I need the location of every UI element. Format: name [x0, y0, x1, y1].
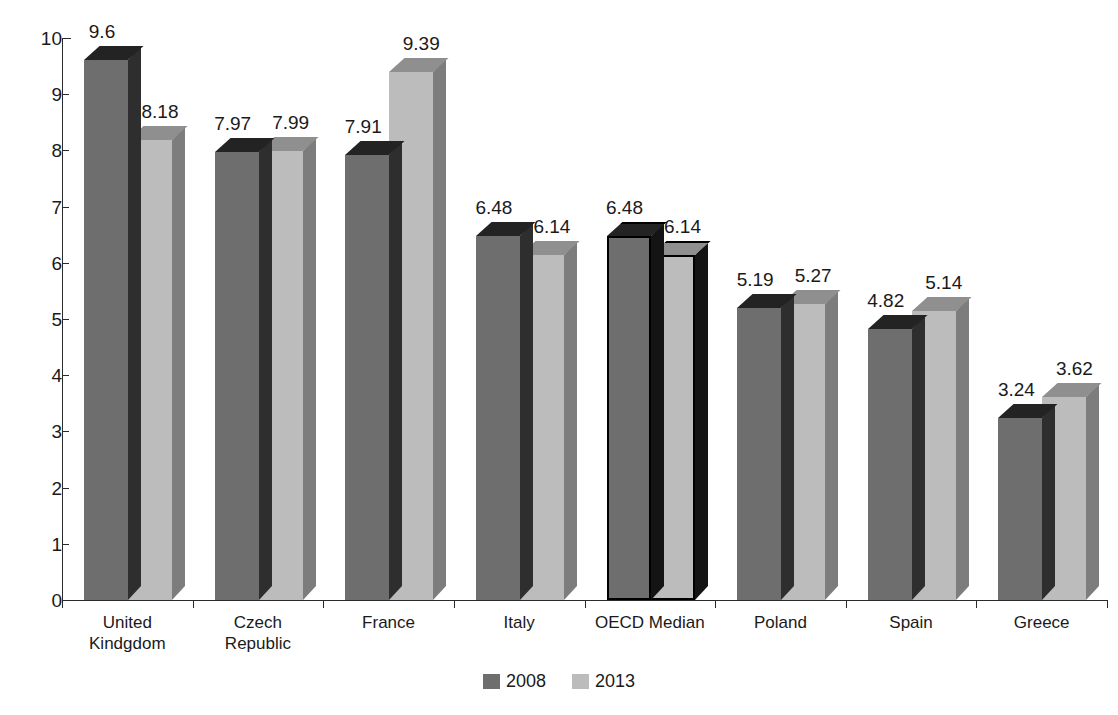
bar-side-face [172, 126, 185, 600]
x-axis-tick-mark [193, 600, 194, 608]
bar-side-face [1042, 404, 1055, 600]
x-axis-tick-mark [323, 600, 324, 608]
bar-side-face [259, 138, 272, 600]
bar-front-face [476, 236, 520, 600]
bar-side-face [564, 241, 577, 600]
bar-side-face [1086, 383, 1099, 600]
bar-side-face [303, 137, 316, 600]
legend-item[interactable]: 2013 [572, 672, 635, 690]
bar-value-label: 6.48 [472, 198, 516, 217]
bar-value-label: 8.18 [138, 102, 182, 121]
bar-side-face [389, 142, 402, 600]
bar-value-label: 6.14 [530, 217, 574, 236]
bar-side-face [695, 241, 708, 600]
bar-2008[interactable] [476, 236, 520, 600]
bar-2008[interactable] [84, 60, 128, 600]
bar-2008[interactable] [607, 236, 651, 600]
bar-side-face [781, 294, 794, 600]
bar-2008[interactable] [737, 308, 781, 600]
legend-label: 2008 [506, 672, 546, 690]
bar-value-label: 5.14 [922, 273, 966, 292]
bar-side-face [433, 58, 446, 600]
bar-side-face [825, 290, 838, 600]
y-axis-tick-label: 5 [22, 310, 62, 329]
bar-value-label: 4.82 [864, 291, 908, 310]
bar-value-label: 7.91 [341, 117, 385, 136]
bar-front-face [868, 329, 912, 600]
bar-2008[interactable] [868, 329, 912, 600]
y-axis: 109876543210 [0, 0, 62, 715]
y-axis-tick-label: 1 [22, 534, 62, 553]
y-axis-tick-label: 2 [22, 478, 62, 497]
legend-swatch-icon [483, 674, 500, 689]
bar-value-label: 6.48 [603, 198, 647, 217]
x-axis-category-label: Greece [976, 612, 1107, 633]
bar-value-label: 6.14 [661, 217, 705, 236]
y-axis-tick-label: 10 [22, 29, 62, 48]
x-axis-category-label: OECD Median [585, 612, 716, 633]
bar-value-label: 5.27 [791, 266, 835, 285]
bar-front-face [737, 308, 781, 600]
x-axis-category-label: United Kindgdom [62, 612, 193, 654]
x-axis-tick-mark [715, 600, 716, 608]
bar-2008[interactable] [215, 152, 259, 600]
chart-legend: 20082013 [0, 672, 1118, 690]
x-axis-category-label: Poland [715, 612, 846, 633]
y-axis-tick-label: 0 [22, 591, 62, 610]
bar-front-face [215, 152, 259, 600]
bar-2008[interactable] [345, 155, 389, 600]
x-axis-category-label: Spain [846, 612, 977, 633]
x-axis-tick-mark [454, 600, 455, 608]
bar-value-label: 7.99 [269, 113, 313, 132]
bar-value-label: 7.97 [211, 114, 255, 133]
bar-side-face [128, 47, 141, 600]
y-axis-tick-label: 8 [22, 141, 62, 160]
bar-side-face [912, 315, 925, 600]
bar-side-face [520, 222, 533, 600]
x-axis-tick-mark [585, 600, 586, 608]
x-axis-tick-mark [62, 600, 63, 608]
bar-front-face [607, 236, 651, 600]
legend-swatch-icon [572, 674, 589, 689]
bar-side-face [651, 222, 664, 600]
x-axis-tick-mark [846, 600, 847, 608]
bar-value-label: 9.39 [399, 34, 443, 53]
y-axis-tick-label: 7 [22, 197, 62, 216]
bar-chart: 109876543210 United KindgdomCzech Republ… [0, 0, 1118, 715]
bar-front-face [345, 155, 389, 600]
y-axis-tick-label: 4 [22, 366, 62, 385]
bar-value-label: 3.62 [1052, 359, 1096, 378]
x-axis-tick-mark [976, 600, 977, 608]
bar-front-face [84, 60, 128, 600]
bar-2008[interactable] [998, 418, 1042, 600]
bar-value-label: 9.6 [80, 22, 124, 41]
x-axis-tick-mark [1107, 600, 1108, 608]
bar-value-label: 5.19 [733, 270, 777, 289]
y-axis-tick-label: 9 [22, 85, 62, 104]
x-axis-category-label: Czech Republic [193, 612, 324, 654]
y-axis-tick-label: 6 [22, 253, 62, 272]
bar-side-face [956, 297, 969, 600]
legend-item[interactable]: 2008 [483, 672, 546, 690]
y-axis-tick-label: 3 [22, 422, 62, 441]
x-axis-category-label: Italy [454, 612, 585, 633]
legend-label: 2013 [595, 672, 635, 690]
x-axis-category-label: France [323, 612, 454, 633]
bar-front-face [998, 418, 1042, 600]
bar-value-label: 3.24 [994, 380, 1038, 399]
